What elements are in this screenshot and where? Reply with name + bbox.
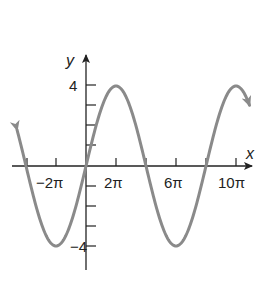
- x-axis-label: x: [245, 145, 255, 162]
- x-tick-label-10pi: 10π: [218, 174, 245, 191]
- sine-graph: y x 4 −4 −2π 2π 6π 10π: [0, 0, 276, 282]
- x-tick-label-6pi: 6π: [164, 174, 183, 191]
- x-ticks: [27, 158, 236, 166]
- y-tick-label-4: 4: [69, 77, 77, 94]
- y-tick-label-neg4: −4: [70, 238, 87, 255]
- x-tick-label-neg2pi: −2π: [36, 174, 63, 191]
- x-tick-label-2pi: 2π: [104, 174, 123, 191]
- y-axis-label: y: [65, 52, 75, 69]
